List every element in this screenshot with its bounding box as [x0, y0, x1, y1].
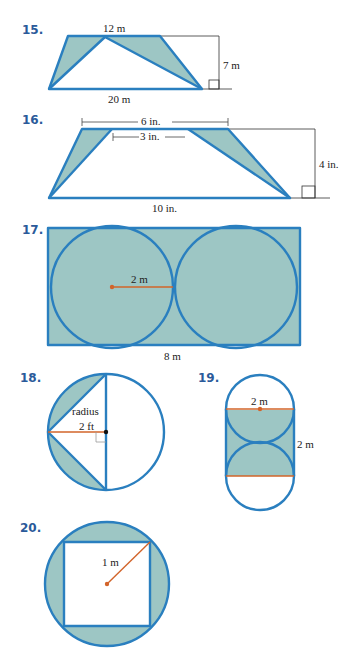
- problem-17: 17. 2 m 8 m: [22, 223, 300, 362]
- label-radius: 2 m: [131, 273, 148, 285]
- label-diameter: 2 m: [251, 395, 268, 407]
- label-inner-top: 3 in.: [140, 130, 160, 142]
- problem-18: 18. radius 2 ft: [20, 370, 164, 500]
- problem-16: 16. 6 in. 3 in. 4 in. 10 in.: [22, 113, 339, 214]
- problem-number: 15.: [22, 23, 43, 37]
- problem-number: 20.: [20, 521, 41, 535]
- label-bottom: 10 in.: [152, 202, 177, 214]
- geometry-problems-figure: 15. 12 m 7 m 20 m 16. 6 in. 3 in. 4 in.: [0, 0, 349, 656]
- right-angle-marker: [302, 186, 315, 198]
- label-outer-top: 6 in.: [141, 115, 161, 127]
- inner-edge-right: [188, 129, 290, 198]
- problem-number: 16.: [22, 113, 43, 127]
- center-dot: [104, 430, 108, 434]
- problem-number: 17.: [22, 223, 43, 237]
- center-dot: [105, 582, 109, 586]
- right-angle-marker: [209, 80, 219, 89]
- center-dot: [110, 285, 114, 289]
- label-side: 2 m: [297, 438, 314, 450]
- label-height: 7 m: [223, 59, 240, 71]
- problem-19: 19. 2 m 2 m: [198, 371, 314, 510]
- problem-number: 19.: [198, 371, 219, 385]
- label-bottom: 20 m: [108, 93, 131, 105]
- center-dot: [258, 407, 262, 411]
- problem-15: 15. 12 m 7 m 20 m: [22, 22, 240, 105]
- label-width: 8 m: [164, 350, 181, 362]
- problem-20: 20. 1 m: [20, 521, 169, 646]
- label-height: 4 in.: [319, 158, 339, 170]
- label-radius: 1 m: [102, 556, 119, 568]
- label-radius: 2 ft: [79, 420, 94, 432]
- label-radius-word: radius: [72, 405, 99, 417]
- label-top: 12 m: [103, 22, 126, 34]
- problem-number: 18.: [20, 371, 41, 385]
